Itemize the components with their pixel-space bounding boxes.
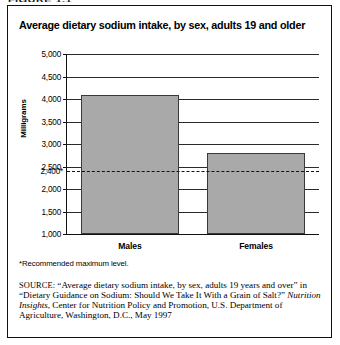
bar-females xyxy=(207,153,305,234)
x-axis-label-females: Females xyxy=(239,241,273,251)
gridline xyxy=(67,54,319,55)
footnote: *Recommended maximum level. xyxy=(19,259,129,268)
y-axis-tick xyxy=(63,77,67,78)
y-axis-tick xyxy=(63,144,67,145)
plot-area: 5,0004,5004,0003,5003,0002,5002,0001,500… xyxy=(66,54,319,235)
y-axis-tick-label: 1,500 xyxy=(42,207,62,216)
figure-caption: FIGURE 1.1 xyxy=(8,0,72,2)
figure-frame: Average dietary sodium intake, by sex, a… xyxy=(7,5,332,338)
y-axis-tick-label: 3,000 xyxy=(42,140,62,149)
y-axis-tick-label: 5,000 xyxy=(42,50,62,59)
plot-wrapper: Milligrams 5,0004,5004,0003,5003,0002,50… xyxy=(8,46,333,244)
figure-root: FIGURE 1.1 Average dietary sodium intake… xyxy=(0,0,340,345)
y-axis-tick xyxy=(63,212,67,213)
y-axis-tick xyxy=(63,122,67,123)
threshold-line-recommended-maximum xyxy=(67,171,319,172)
source-note: SOURCE: “Average dietary sodium intake, … xyxy=(19,281,325,321)
x-axis-label-males: Males xyxy=(118,241,141,251)
y-axis-tick xyxy=(63,54,67,55)
y-axis-tick-label: 4,000 xyxy=(42,95,62,104)
y-axis-tick-label: 1,000 xyxy=(42,230,62,239)
y-axis-tick xyxy=(63,234,67,235)
chart-title: Average dietary sodium intake, by sex, a… xyxy=(19,19,310,32)
y-axis-tick-label: 3,500 xyxy=(42,117,62,126)
source-label: SOURCE: xyxy=(19,281,55,290)
y-axis-tick xyxy=(63,189,67,190)
gridline xyxy=(67,77,319,78)
y-axis-tick xyxy=(63,99,67,100)
source-text-part2: , Center for Nutrition Policy and Promot… xyxy=(19,300,282,320)
y-axis-tick-label: 2,000 xyxy=(42,185,62,194)
bar-males xyxy=(81,95,179,235)
y-axis-tick xyxy=(63,167,67,168)
y-axis-title: Milligrams xyxy=(19,69,28,169)
threshold-label-recommended-maximum: 2,400* xyxy=(41,167,63,176)
y-axis-tick-label: 4,500 xyxy=(42,72,62,81)
source-text-part1: “Average dietary sodium intake, by sex, … xyxy=(19,280,307,300)
